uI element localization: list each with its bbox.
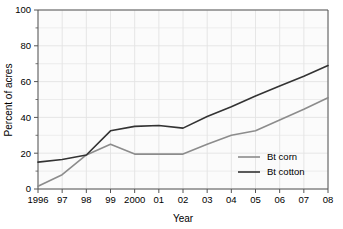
x-axis-tick-label: 05 [250, 194, 261, 205]
x-axis-tick-label: 04 [226, 194, 237, 205]
x-axis-tick-label: 08 [323, 194, 334, 205]
chart-container: 020406080100 199697989920000102030405060… [0, 0, 343, 229]
y-axis-tick-label: 60 [20, 76, 31, 87]
x-axis-tick-label: 03 [202, 194, 213, 205]
x-axis-tick-label: 07 [299, 194, 310, 205]
x-axis-tick-label: 06 [274, 194, 285, 205]
y-axis-tick-label: 80 [20, 40, 31, 51]
y-axis-tick-label: 20 [20, 148, 31, 159]
x-axis-tick-label: 98 [81, 194, 92, 205]
legend-label-bt-cotton: Bt cotton [267, 166, 305, 177]
x-axis-tick-label: 02 [178, 194, 189, 205]
y-axis-title: Percent of acres [3, 64, 14, 137]
x-axis-tick-label: 1996 [27, 194, 48, 205]
x-axis-title: Year [173, 213, 194, 224]
y-axis-tick-label: 100 [15, 4, 31, 15]
legend-label-bt-corn: Bt corn [267, 151, 297, 162]
x-axis-tick-label: 97 [57, 194, 68, 205]
y-axis-tick-label: 0 [26, 183, 31, 194]
x-axis-tick-label: 01 [154, 194, 165, 205]
x-axis-tick-label: 2000 [124, 194, 145, 205]
y-axis-tick-label: 40 [20, 112, 31, 123]
line-chart: 020406080100 199697989920000102030405060… [0, 0, 343, 229]
x-axis-tick-label: 99 [105, 194, 116, 205]
